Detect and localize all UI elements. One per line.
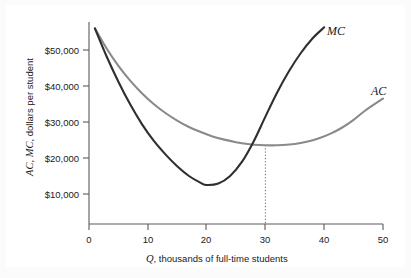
y-axis-symbol-ac: AC — [24, 162, 35, 177]
x-tick-label-50: 50 — [378, 234, 389, 245]
ac-curve-label: AC — [370, 84, 387, 98]
y-tick-label-40000: $40,000 — [45, 81, 79, 92]
x-tick-label-10: 10 — [143, 234, 154, 245]
y-tick-label-50000: $50,000 — [45, 45, 79, 56]
y-axis-title-rest: , dollars per student — [24, 58, 35, 142]
cost-curves-chart: AC, MC, dollars per student Q, thousands… — [0, 0, 411, 278]
x-axis-tick-labels: 0 10 20 30 40 50 — [86, 234, 388, 245]
svg-text:AC, MC, dollars per student: AC, MC, dollars per student — [24, 58, 35, 177]
y-axis-symbol-mc: MC — [24, 141, 35, 159]
y-axis-tick-labels: $50,000 $40,000 $30,000 $20,000 $10,000 — [45, 45, 79, 200]
y-tick-label-30000: $30,000 — [45, 117, 79, 128]
mc-curve — [95, 27, 324, 185]
x-axis-title-rest: , thousands of full-time students — [154, 253, 288, 264]
x-axis-ticks — [89, 224, 383, 230]
x-axis-title: Q, thousands of full-time students — [146, 253, 288, 264]
x-tick-label-0: 0 — [86, 234, 91, 245]
svg-text:Q, thousands of full-time stud: Q, thousands of full-time students — [146, 253, 288, 264]
y-tick-label-10000: $10,000 — [45, 189, 79, 200]
x-tick-label-20: 20 — [201, 234, 212, 245]
figure-container: AC, MC, dollars per student Q, thousands… — [0, 0, 411, 278]
y-tick-label-20000: $20,000 — [45, 153, 79, 164]
x-tick-label-40: 40 — [319, 234, 330, 245]
y-axis-title: AC, MC, dollars per student — [24, 58, 35, 177]
mc-curve-label: MC — [326, 24, 346, 38]
x-tick-label-30: 30 — [260, 234, 271, 245]
ac-curve — [95, 28, 383, 145]
y-axis-ticks — [83, 50, 89, 194]
